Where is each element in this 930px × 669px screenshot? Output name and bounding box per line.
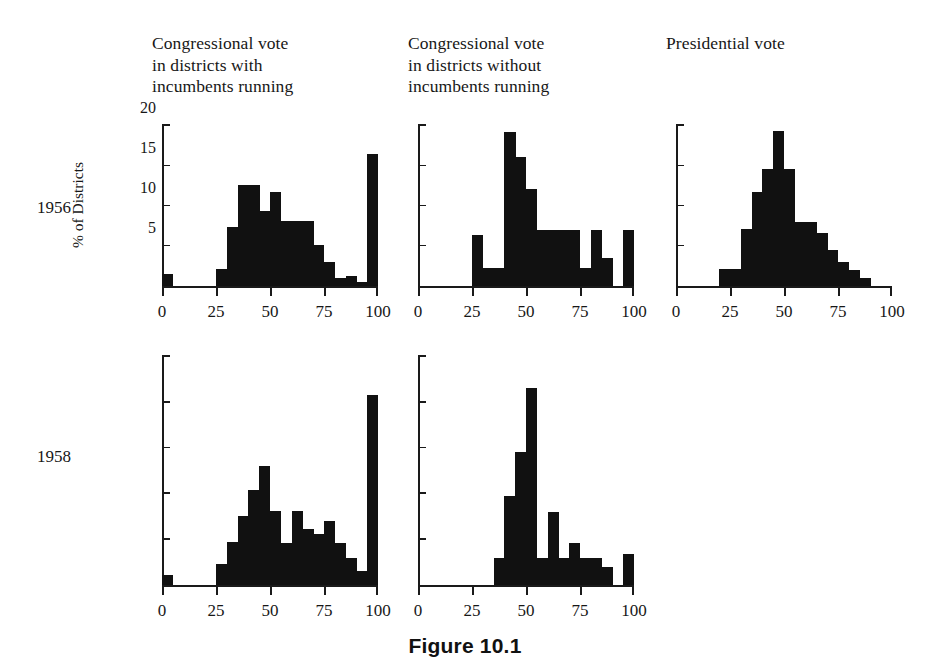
histogram-bar bbox=[259, 466, 270, 586]
y-axis-tick bbox=[418, 401, 426, 403]
histogram-bar bbox=[216, 269, 227, 287]
x-axis-tick bbox=[632, 587, 634, 595]
x-axis-tick-label: 100 bbox=[621, 601, 647, 621]
y-axis-tick-label: 20 bbox=[140, 99, 156, 117]
histogram-bar bbox=[227, 227, 238, 286]
histogram-bar bbox=[569, 543, 580, 585]
histogram-bar bbox=[537, 230, 548, 286]
x-axis-tick bbox=[162, 288, 164, 296]
x-axis-tick bbox=[216, 288, 218, 296]
x-axis-tick-label: 50 bbox=[518, 601, 535, 621]
y-axis-line bbox=[418, 126, 420, 288]
histogram-bar bbox=[346, 276, 357, 286]
x-axis-tick-label: 100 bbox=[621, 302, 647, 322]
x-axis-tick-label: 0 bbox=[672, 302, 681, 322]
x-axis-tick bbox=[376, 288, 378, 296]
x-axis-tick-label: 25 bbox=[464, 601, 481, 621]
y-axis-line bbox=[676, 126, 678, 288]
x-axis-tick-label: 100 bbox=[365, 302, 391, 322]
column-title-congressional-with-incumbents: Congressional vote in districts with inc… bbox=[152, 33, 362, 98]
x-axis-tick bbox=[676, 288, 678, 296]
histogram-bar bbox=[270, 192, 281, 287]
x-axis-tick bbox=[376, 587, 378, 595]
histogram-bar bbox=[719, 269, 730, 287]
histogram-bar bbox=[795, 222, 806, 286]
histogram-bar bbox=[292, 221, 303, 287]
histogram-bar bbox=[270, 511, 281, 586]
x-axis-tick-label: 0 bbox=[158, 601, 167, 621]
x-axis-tick bbox=[580, 288, 582, 296]
x-axis-tick-label: 0 bbox=[414, 601, 423, 621]
y-axis-line bbox=[418, 357, 420, 587]
x-axis-tick-label: 25 bbox=[722, 302, 739, 322]
x-axis-tick-label: 50 bbox=[776, 302, 793, 322]
histogram-bar bbox=[504, 132, 515, 287]
x-axis-tick-label: 50 bbox=[262, 302, 279, 322]
y-axis-tick bbox=[162, 401, 170, 403]
x-axis-tick bbox=[580, 587, 582, 595]
y-axis-tick bbox=[676, 245, 684, 247]
histogram-bar bbox=[162, 575, 173, 585]
histogram-bar bbox=[238, 185, 249, 287]
y-axis-tick bbox=[162, 245, 170, 247]
histogram-bar bbox=[515, 157, 526, 286]
x-axis-tick bbox=[324, 288, 326, 296]
histogram-bar bbox=[602, 567, 613, 585]
x-axis-tick bbox=[472, 587, 474, 595]
row-label-1956: 1956 bbox=[37, 198, 71, 218]
histogram-bar bbox=[623, 230, 634, 286]
x-axis-tick bbox=[632, 288, 634, 296]
histogram-bar bbox=[494, 558, 505, 585]
y-axis-tick-label: 5 bbox=[148, 219, 156, 237]
x-axis-tick-label: 75 bbox=[830, 302, 847, 322]
y-axis-tick-label: 15 bbox=[140, 139, 156, 157]
plot-area: 51015200255075100 bbox=[162, 126, 378, 288]
histogram-1956-congressional-without-incumbents: 0255075100 bbox=[418, 126, 634, 288]
y-axis-caption: % of Districts bbox=[69, 125, 87, 285]
x-axis-tick-label: 25 bbox=[208, 302, 225, 322]
histogram-bar bbox=[526, 388, 537, 585]
row-label-1958: 1958 bbox=[37, 447, 71, 467]
histogram-bar bbox=[302, 529, 313, 586]
y-axis-tick bbox=[418, 355, 426, 357]
histogram-bar bbox=[292, 511, 303, 586]
histogram-bar bbox=[216, 564, 227, 585]
histogram-bar bbox=[302, 221, 313, 287]
histogram-bar bbox=[248, 490, 259, 585]
histogram-bar bbox=[730, 269, 741, 287]
x-axis-tick-label: 100 bbox=[879, 302, 905, 322]
x-axis-tick bbox=[270, 587, 272, 595]
histogram-1958-congressional-without-incumbents: 0255075100 bbox=[418, 357, 634, 587]
histogram-bar bbox=[752, 192, 763, 287]
histogram-bar bbox=[784, 169, 795, 286]
x-axis-tick-label: 0 bbox=[158, 302, 167, 322]
histogram-bar bbox=[356, 571, 367, 586]
histogram-bar bbox=[569, 230, 580, 286]
histogram-bar bbox=[313, 534, 324, 585]
histogram-bar bbox=[623, 554, 634, 585]
histogram-bar bbox=[238, 516, 249, 585]
histogram-bar bbox=[515, 452, 526, 585]
y-axis-tick bbox=[162, 538, 170, 540]
histogram-bar bbox=[558, 558, 569, 585]
histogram-bar bbox=[248, 185, 259, 287]
histogram-bar bbox=[494, 268, 505, 286]
x-axis-tick-label: 75 bbox=[572, 601, 589, 621]
histogram-bar bbox=[504, 496, 515, 586]
x-axis-tick-label: 50 bbox=[518, 302, 535, 322]
histogram-bar bbox=[548, 512, 559, 585]
histogram-bar bbox=[806, 222, 817, 286]
histogram-bar bbox=[773, 131, 784, 287]
plot-area: 0255075100 bbox=[676, 126, 892, 288]
histogram-1956-congressional-with-incumbents: 51015200255075100 bbox=[162, 126, 378, 288]
histogram-bar bbox=[816, 233, 827, 286]
x-axis-tick-label: 25 bbox=[208, 601, 225, 621]
x-axis-tick bbox=[730, 288, 732, 296]
histogram-bar bbox=[526, 189, 537, 287]
histogram-bar bbox=[838, 262, 849, 286]
histogram-bar bbox=[591, 230, 602, 286]
histogram-bar bbox=[483, 268, 494, 286]
y-axis-tick bbox=[676, 165, 684, 167]
histogram-bar bbox=[602, 258, 613, 287]
y-axis-tick bbox=[162, 355, 170, 357]
